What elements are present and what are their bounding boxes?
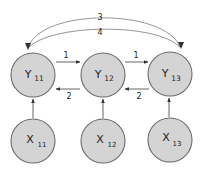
node-subscript: 12	[108, 141, 117, 149]
edge-label-2b: 2	[136, 92, 141, 101]
node-subscript: 12	[104, 74, 114, 83]
arc-edges: 3 4	[25, 13, 184, 50]
node-subscript: 13	[171, 74, 181, 83]
node-letter: X	[96, 133, 104, 146]
node-subscript: 11	[34, 74, 44, 83]
diagram-canvas: 3 4 1 1 2 2 Y 11 Y 12 Y 13 X 11	[0, 0, 206, 169]
node-letter: Y	[94, 68, 102, 81]
vertical-edges	[33, 98, 169, 118]
node-x12: X 12	[81, 119, 125, 163]
node-subscript: 11	[38, 141, 47, 149]
node-x13: X 13	[148, 118, 192, 162]
node-letter: X	[162, 131, 170, 144]
arc-label-3: 3	[97, 13, 102, 22]
node-letter: X	[26, 133, 34, 146]
edge-label-1b: 1	[133, 51, 138, 60]
node-y12: Y 12	[81, 53, 125, 97]
node-letter: Y	[161, 67, 169, 80]
arc-label-4: 4	[97, 28, 102, 37]
node-subscript: 13	[173, 140, 182, 148]
arc-edge-3	[28, 18, 180, 48]
node-letter: Y	[24, 68, 32, 81]
arc-edge-4	[28, 29, 180, 48]
node-x11: X 11	[11, 119, 55, 163]
node-y13: Y 13	[148, 52, 192, 96]
node-y11: Y 11	[11, 53, 55, 97]
edge-label-1a: 1	[63, 51, 68, 60]
edge-label-2a: 2	[66, 92, 71, 101]
